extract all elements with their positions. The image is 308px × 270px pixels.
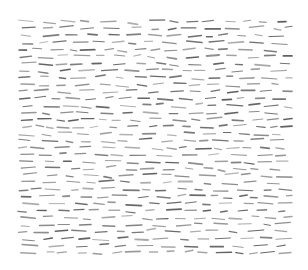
dash-texture xyxy=(0,0,308,270)
